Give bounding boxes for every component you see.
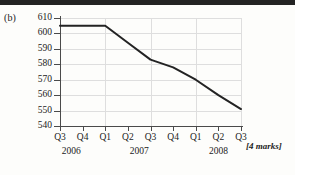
y-tick-mark [54,111,60,112]
x-tick-label: Q3 [49,133,71,143]
y-tick-mark [54,33,60,34]
data-series-line [60,18,242,126]
y-tick-mark [54,18,60,19]
x-tick-mark [128,126,129,131]
y-tick-label: 590 [24,44,52,54]
x-tick-label: Q3 [140,133,162,143]
x-tick-mark [218,126,219,131]
x-tick-mark [196,126,197,131]
x-tick-mark [173,126,174,131]
x-tick-mark [151,126,152,131]
y-tick-label: 600 [24,28,52,38]
x-axis [60,126,243,127]
y-tick-label: 560 [24,90,52,100]
x-tick-label: Q4 [72,133,94,143]
x-tick-mark [60,126,61,131]
x-year-label: 2008 [202,147,234,157]
x-year-label: 2006 [55,147,87,157]
x-tick-label: Q4 [162,133,184,143]
marks-allocation-label: [4 marks] [246,141,282,151]
x-year-label: 2007 [123,147,155,157]
x-tick-label: Q1 [185,133,207,143]
x-tick-mark [83,126,84,131]
y-tick-mark [54,49,60,50]
x-tick-label: Q1 [94,133,116,143]
y-tick-mark [54,80,60,81]
y-tick-mark [54,95,60,96]
x-tick-mark [241,126,242,131]
y-tick-label: 580 [24,59,52,69]
y-tick-mark [54,64,60,65]
x-tick-label: Q2 [207,133,229,143]
x-tick-mark [105,126,106,131]
y-tick-label: 570 [24,75,52,85]
x-tick-label: Q2 [117,133,139,143]
y-tick-label: 610 [24,13,52,23]
y-tick-label: 550 [24,106,52,116]
y-tick-label: 540 [24,121,52,131]
